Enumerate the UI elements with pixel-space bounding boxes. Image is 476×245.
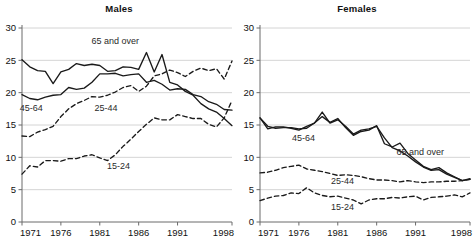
x-tick-label: 1981 — [327, 227, 348, 238]
series-annotation: 25-44 — [331, 176, 354, 186]
y-tick-label: 25 — [5, 55, 16, 66]
x-tick-label: 1991 — [167, 227, 188, 238]
y-tick-label: 25 — [243, 55, 254, 66]
y-tick-label: 30 — [5, 22, 16, 33]
plot-females: 05101520253019711976198119861991199845-6… — [238, 0, 476, 245]
chart-figure: Males 0510152025301971197619811986199119… — [0, 0, 476, 245]
panel-females: Females 05101520253019711976198119861991… — [238, 0, 476, 245]
series-annotation: 15-24 — [107, 161, 130, 171]
y-tick-label: 15 — [243, 119, 254, 130]
y-tick-label: 10 — [243, 152, 254, 163]
x-tick-label: 1971 — [20, 227, 41, 238]
y-tick-label: 0 — [11, 216, 16, 227]
x-tick-label: 1998 — [451, 227, 472, 238]
series-line-45-64 — [260, 112, 470, 181]
plot-males: 05101520253019711976198119861991199865 a… — [0, 0, 238, 245]
series-annotation: 65 and over — [396, 147, 444, 157]
y-tick-label: 5 — [11, 184, 16, 195]
y-tick-label: 20 — [5, 87, 16, 98]
x-tick-label: 1986 — [128, 227, 149, 238]
x-tick-label: 1971 — [258, 227, 279, 238]
y-tick-label: 30 — [243, 22, 254, 33]
y-tick-label: 15 — [5, 119, 16, 130]
x-tick-label: 1998 — [213, 227, 234, 238]
series-line-45-64 — [22, 73, 232, 110]
x-tick-label: 1981 — [89, 227, 110, 238]
series-annotation: 45-64 — [292, 133, 315, 143]
panel-males: Males 0510152025301971197619811986199119… — [0, 0, 238, 245]
series-line-15-24 — [260, 188, 470, 204]
series-annotation: 65 and over — [92, 36, 140, 46]
y-tick-label: 5 — [249, 184, 254, 195]
x-tick-label: 1991 — [405, 227, 426, 238]
series-line-65-and-over — [22, 53, 232, 126]
x-tick-label: 1976 — [50, 227, 71, 238]
series-annotation: 45-64 — [20, 103, 43, 113]
series-annotation: 15-24 — [331, 202, 354, 212]
x-tick-label: 1976 — [288, 227, 309, 238]
x-tick-label: 1986 — [366, 227, 387, 238]
y-tick-label: 20 — [243, 87, 254, 98]
y-tick-label: 10 — [5, 152, 16, 163]
y-tick-label: 0 — [249, 216, 254, 227]
series-annotation: 25-44 — [94, 103, 117, 113]
